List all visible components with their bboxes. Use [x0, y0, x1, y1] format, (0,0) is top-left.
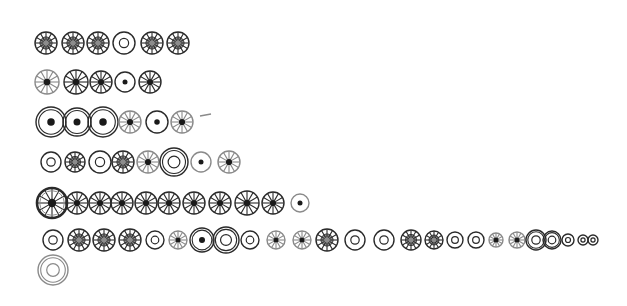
- spoked-dot-circle-icon: [139, 71, 161, 93]
- spoked-dot-circle-icon: [64, 70, 88, 94]
- ring-circle-icon: [241, 231, 259, 249]
- spoked-dot-circle-icon: [89, 192, 111, 214]
- row-7: [38, 255, 68, 285]
- spoked-filled-circle-icon: [87, 32, 109, 54]
- row-6: [43, 227, 598, 253]
- spoked-dot-circle-icon: [183, 192, 205, 214]
- spoked-filled-circle-icon: [141, 32, 163, 54]
- spoked-filled-circle-icon: [119, 229, 141, 251]
- spoked-dot-circle-icon: [262, 192, 284, 214]
- spoked-dot-light-circle-icon: [509, 232, 525, 248]
- ring-circle-icon: [562, 234, 574, 246]
- spoked-dot-circle-icon: [90, 71, 112, 93]
- hand-drawn-circles-sketch: [0, 0, 627, 306]
- ring-circle-icon: [468, 232, 484, 248]
- double-dot-ring-circle-icon: [63, 108, 91, 136]
- spoked-dot-light-circle-icon: [267, 231, 285, 249]
- spoked-dot-light-circle-icon: [169, 231, 187, 249]
- spoked-filled-circle-icon: [68, 229, 90, 251]
- ring-circle-icon: [345, 230, 365, 250]
- spoked-filled-circle-icon: [35, 32, 57, 54]
- ring-circle-icon: [588, 235, 598, 245]
- dot-ring-light-circle-icon: [191, 152, 211, 172]
- spoked-dot-light-circle-icon: [137, 151, 159, 173]
- double-ring-circle-icon: [160, 148, 188, 176]
- spoked-filled-circle-icon: [401, 230, 421, 250]
- spoked-dot-circle-icon: [66, 192, 88, 214]
- ring-circle-icon: [43, 230, 63, 250]
- double-dot-ring-circle-icon: [36, 107, 66, 137]
- pencil-mark: [200, 114, 211, 116]
- ring-circle-icon: [374, 230, 394, 250]
- spoked-dot-circle-icon: [111, 192, 133, 214]
- spoked-filled-circle-icon: [65, 152, 85, 172]
- dot-ring-light-circle-icon: [291, 194, 309, 212]
- spoked-filled-circle-icon: [425, 231, 443, 249]
- ring-circle-icon: [113, 32, 135, 54]
- spoked-filled-circle-icon: [316, 229, 338, 251]
- ring-circle-icon: [447, 232, 463, 248]
- spoked-dot-circle-icon: [135, 192, 157, 214]
- dot-ring-circle-icon: [115, 72, 135, 92]
- spoked-filled-circle-icon: [167, 32, 189, 54]
- spoked-dot-circle-icon: [158, 192, 180, 214]
- spoked-filled-circle-icon: [93, 229, 115, 251]
- spoked-dot-light-circle-icon: [218, 151, 240, 173]
- ring-circle-icon: [89, 151, 111, 173]
- bold-spoked-dot-circle-icon: [37, 188, 67, 218]
- spoked-filled-circle-icon: [112, 151, 134, 173]
- double-ring-light-circle-icon: [38, 255, 68, 285]
- spoked-dot-light-circle-icon: [35, 70, 59, 94]
- spoked-dot-circle-icon: [209, 192, 231, 214]
- double-dot-ring-circle-icon: [190, 228, 214, 252]
- spoked-dot-light-circle-icon: [171, 111, 193, 133]
- spoked-dot-light-circle-icon: [119, 111, 141, 133]
- spoked-dot-circle-icon: [235, 191, 259, 215]
- row-2: [35, 70, 161, 94]
- ring-circle-icon: [41, 152, 61, 172]
- sketch-canvas: [0, 0, 627, 306]
- row-3: [36, 107, 211, 137]
- double-ring-circle-icon: [213, 227, 239, 253]
- ring-circle-icon: [578, 235, 588, 245]
- spoked-dot-light-circle-icon: [293, 231, 311, 249]
- row-5: [37, 188, 309, 218]
- double-dot-ring-circle-icon: [88, 107, 118, 137]
- dot-ring-circle-icon: [146, 111, 168, 133]
- spoked-dot-light-circle-icon: [489, 233, 503, 247]
- row-4: [41, 148, 240, 176]
- ring-circle-icon: [146, 231, 164, 249]
- row-1: [35, 32, 189, 54]
- spoked-filled-circle-icon: [62, 32, 84, 54]
